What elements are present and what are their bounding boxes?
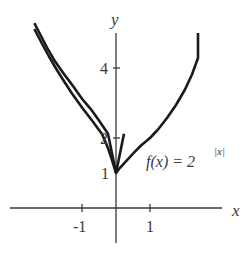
function-label-exponent: |x| bbox=[214, 145, 225, 157]
function-graph: x y -1 1 4 2 1 f(x) = 2 |x| bbox=[0, 0, 248, 255]
x-tick-label-neg1: -1 bbox=[73, 218, 86, 235]
y-tick-label-2: 2 bbox=[100, 130, 108, 147]
y-tick-label-4: 4 bbox=[100, 60, 108, 77]
y-tick-label-1: 1 bbox=[101, 165, 109, 182]
x-axis-label: x bbox=[231, 201, 240, 220]
function-curve bbox=[34, 23, 124, 173]
x-tick-label-1: 1 bbox=[146, 218, 154, 235]
function-label: f(x) = 2 bbox=[146, 153, 195, 171]
y-axis-label: y bbox=[109, 10, 119, 29]
